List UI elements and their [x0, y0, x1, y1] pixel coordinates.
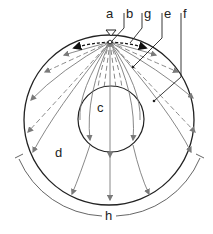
core-outline	[78, 86, 144, 152]
label-b: b	[126, 6, 133, 21]
label-a: a	[106, 6, 114, 21]
label-f-dot	[153, 100, 156, 103]
label-h-shadow-zone: h	[105, 208, 112, 223]
label-c-core: c	[97, 100, 104, 115]
source-point	[108, 40, 112, 44]
seismic-diagram: a b g e f c d h	[0, 0, 213, 234]
label-d-mantle: d	[55, 145, 62, 160]
solid-rays	[31, 42, 193, 200]
shadow-zone-bracket	[15, 154, 204, 216]
label-g: g	[144, 6, 151, 21]
label-e: e	[164, 6, 171, 21]
label-e-dot	[132, 66, 135, 69]
label-f: f	[183, 6, 187, 21]
earth-outline	[24, 35, 194, 205]
